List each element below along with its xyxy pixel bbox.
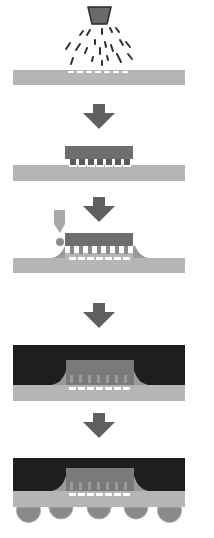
down-arrow-icon <box>82 303 116 329</box>
solder-ball <box>87 507 111 519</box>
solder-ball <box>17 507 41 522</box>
down-arrow-icon <box>82 104 116 130</box>
solder-balls <box>17 507 182 522</box>
bond-pads <box>68 71 128 73</box>
process-arrow-3 <box>82 303 116 329</box>
step-3-underfill <box>0 208 214 280</box>
bond-pads <box>69 493 130 496</box>
underfill-droplet <box>56 238 64 246</box>
spray-droplets <box>66 28 132 65</box>
flux-spray-illustration <box>0 0 214 90</box>
process-arrow-1 <box>82 104 116 130</box>
solder-ball <box>49 507 73 519</box>
bond-pads <box>69 387 130 390</box>
bond-pads <box>69 165 131 167</box>
solder-ball <box>158 507 182 522</box>
die <box>65 146 133 159</box>
step-5-solder-balls <box>0 458 214 538</box>
die <box>65 233 133 246</box>
underfill-dispenser-icon <box>54 210 65 233</box>
step-2-die-attach <box>0 140 214 190</box>
solder-ball <box>124 507 148 519</box>
solder-bumps <box>70 159 130 165</box>
solder-bumps <box>70 246 128 254</box>
step-1-flux-spray <box>0 0 214 90</box>
spray-nozzle-icon <box>88 7 111 24</box>
down-arrow-icon <box>82 413 116 439</box>
substrate <box>13 165 185 181</box>
process-arrow-4 <box>82 413 116 439</box>
step-4-mold <box>0 345 214 403</box>
bond-pads <box>69 257 130 260</box>
